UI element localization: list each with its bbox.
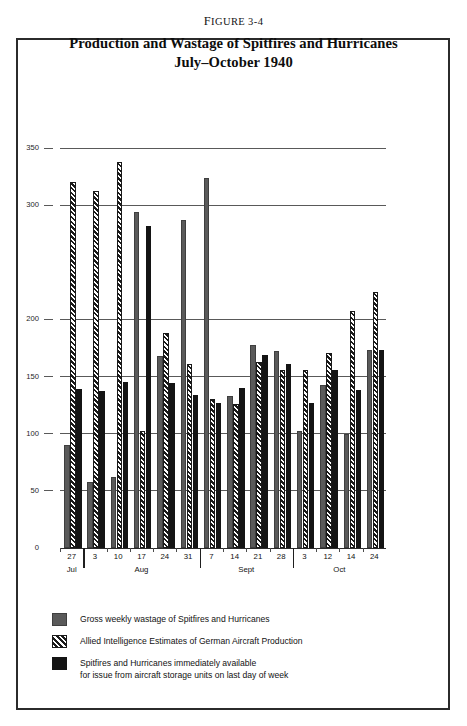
bar-available-27-0 xyxy=(76,389,81,548)
bar-available-12-11 xyxy=(332,370,337,548)
legend-label-line1: Gross weekly wastage of Spitfires and Hu… xyxy=(80,614,270,626)
bar-production-21-8 xyxy=(256,362,261,548)
bar-production-17-3 xyxy=(140,431,145,548)
bar-production-10-2 xyxy=(117,162,122,548)
legend-swatch-production xyxy=(52,635,67,648)
y-tick-dash-100 xyxy=(44,433,53,434)
y-tick-label-150: 150 xyxy=(0,372,39,381)
month-separator-Sept xyxy=(200,548,201,568)
y-tick-dash-50 xyxy=(44,490,53,491)
y-tick-label-200: 200 xyxy=(0,314,39,323)
bar-production-14-7 xyxy=(233,404,238,548)
y-tick-label-50: 50 xyxy=(0,486,39,495)
legend-label-production: Allied Intelligence Estimates of German … xyxy=(80,635,303,648)
legend-label-available: Spitfires and Hurricanes immediately ava… xyxy=(80,657,288,681)
bar-available-24-13 xyxy=(379,350,384,548)
bar-wastage-17-3 xyxy=(134,212,139,548)
x-day-label-10: 3 xyxy=(294,552,316,561)
bar-wastage-10-2 xyxy=(111,477,116,548)
gridline-350 xyxy=(60,148,386,149)
bar-available-3-10 xyxy=(309,403,314,548)
bar-wastage-7-6 xyxy=(204,178,209,548)
figure-number: FIGURE 3-4 xyxy=(0,14,467,29)
bar-available-14-7 xyxy=(239,388,244,548)
chart-legend: Gross weekly wastage of Spitfires and Hu… xyxy=(52,613,412,690)
bar-production-27-0 xyxy=(70,182,75,548)
bar-production-14-12 xyxy=(350,311,355,548)
bar-production-24-4 xyxy=(163,333,168,548)
bar-wastage-3-1 xyxy=(87,482,92,548)
gridline-200 xyxy=(60,319,386,320)
bar-available-17-3 xyxy=(146,226,151,548)
figure-title-block: FIGURE 3-4 Production and Wastage of Spi… xyxy=(0,14,467,73)
bar-available-14-12 xyxy=(356,390,361,548)
legend-label-line2: for issue from aircraft storage units on… xyxy=(80,670,288,682)
y-tick-dash-150 xyxy=(44,376,53,377)
legend-swatch-wastage xyxy=(52,613,67,626)
y-tick-label-300: 300 xyxy=(0,200,39,209)
legend-label-line1: Spitfires and Hurricanes immediately ava… xyxy=(80,658,288,670)
bar-wastage-27-0 xyxy=(64,445,69,548)
bar-wastage-14-7 xyxy=(227,396,232,548)
legend-item-wastage: Gross weekly wastage of Spitfires and Hu… xyxy=(52,613,412,626)
x-day-label-9: 28 xyxy=(270,552,292,561)
legend-label-line1: Allied Intelligence Estimates of German … xyxy=(80,636,303,648)
month-separator-Aug xyxy=(83,548,84,568)
figure-number-text: IGURE 3-4 xyxy=(211,16,263,27)
figure-number-prefix: F xyxy=(204,14,211,28)
bar-wastage-24-4 xyxy=(157,356,162,548)
bar-wastage-31-5 xyxy=(181,220,186,548)
gridline-300 xyxy=(60,205,386,206)
x-day-label-5: 31 xyxy=(177,552,199,561)
x-month-label-Sept: Sept xyxy=(226,565,266,574)
bar-production-7-6 xyxy=(210,399,215,548)
x-month-label-Aug: Aug xyxy=(122,565,162,574)
legend-label-wastage: Gross weekly wastage of Spitfires and Hu… xyxy=(80,613,270,626)
y-tick-label-350: 350 xyxy=(0,143,39,152)
bar-production-12-11 xyxy=(326,353,331,548)
x-day-label-1: 3 xyxy=(84,552,106,561)
bar-available-3-1 xyxy=(99,391,104,548)
x-day-label-3: 17 xyxy=(131,552,153,561)
y-axis-labels: 050100150200300350 xyxy=(0,148,60,548)
x-day-label-6: 7 xyxy=(200,552,222,561)
x-day-label-2: 10 xyxy=(107,552,129,561)
y-tick-label-0: 0 xyxy=(0,543,39,552)
figure-page: FIGURE 3-4 Production and Wastage of Spi… xyxy=(0,0,467,726)
x-month-label-Oct: Oct xyxy=(319,565,359,574)
bar-available-24-4 xyxy=(169,383,174,548)
legend-item-available: Spitfires and Hurricanes immediately ava… xyxy=(52,657,412,681)
figure-title-line1: Production and Wastage of Spitfires and … xyxy=(0,34,467,53)
bar-production-28-9 xyxy=(280,370,285,548)
y-tick-dash-300 xyxy=(44,205,53,206)
x-day-label-4: 24 xyxy=(154,552,176,561)
legend-item-production: Allied Intelligence Estimates of German … xyxy=(52,635,412,648)
legend-swatch-available xyxy=(52,657,67,670)
x-axis: 2731017243171421283121424JulAugSeptOct xyxy=(60,548,386,590)
bar-wastage-3-10 xyxy=(297,431,302,548)
bar-available-21-8 xyxy=(262,355,267,548)
figure-title-line2: July–October 1940 xyxy=(0,53,467,72)
bar-wastage-24-13 xyxy=(367,350,372,548)
x-day-label-7: 14 xyxy=(224,552,246,561)
bar-wastage-28-9 xyxy=(274,351,279,548)
x-month-label-Jul: Jul xyxy=(52,565,92,574)
bar-available-10-2 xyxy=(123,382,128,548)
x-day-label-8: 21 xyxy=(247,552,269,561)
x-day-label-11: 12 xyxy=(317,552,339,561)
bar-wastage-21-8 xyxy=(250,345,255,548)
y-tick-label-100: 100 xyxy=(0,429,39,438)
bar-production-3-10 xyxy=(303,370,308,548)
bar-production-24-13 xyxy=(373,292,378,548)
x-day-label-12: 14 xyxy=(340,552,362,561)
bar-wastage-14-12 xyxy=(344,434,349,548)
bar-production-31-5 xyxy=(187,364,192,548)
x-day-label-0: 27 xyxy=(61,552,83,561)
y-tick-dash-350 xyxy=(44,148,53,149)
bar-available-28-9 xyxy=(286,364,291,548)
bar-available-31-5 xyxy=(193,395,198,548)
x-day-label-13: 24 xyxy=(363,552,385,561)
figure-title: Production and Wastage of Spitfires and … xyxy=(0,34,467,73)
bar-available-7-6 xyxy=(216,403,221,548)
y-tick-dash-200 xyxy=(44,319,53,320)
